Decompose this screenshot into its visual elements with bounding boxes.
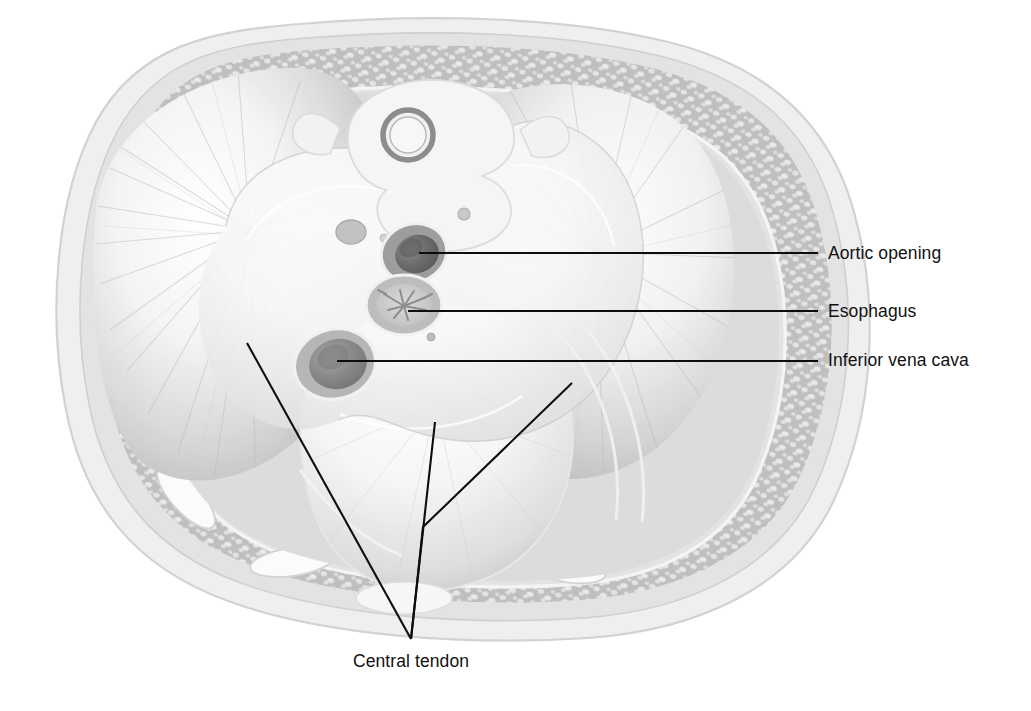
anatomy-figure: Aortic opening Esophagus Inferior vena c… bbox=[0, 0, 1031, 711]
sternum-region bbox=[356, 582, 452, 614]
xiphoid-process bbox=[356, 582, 452, 614]
label-central-tendon: Central tendon bbox=[353, 651, 469, 671]
label-esophagus: Esophagus bbox=[828, 301, 917, 321]
label-aortic-opening: Aortic opening bbox=[828, 243, 941, 263]
crus-vessel-right bbox=[458, 208, 470, 220]
label-inferior-vena-cava: Inferior vena cava bbox=[828, 350, 969, 370]
crus-vessel-left bbox=[336, 220, 366, 244]
diaphragm-illustration: Aortic opening Esophagus Inferior vena c… bbox=[0, 0, 1031, 711]
esophageal-hiatus bbox=[366, 275, 442, 335]
small-vessel-lower bbox=[427, 333, 435, 341]
spinal-cord bbox=[390, 117, 426, 153]
